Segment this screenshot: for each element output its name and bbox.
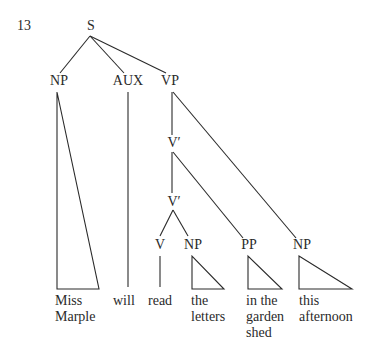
leaf-line: shed: [246, 325, 284, 341]
leaf-this-afternoon: this afternoon: [299, 293, 353, 325]
branch-s-np: [60, 36, 90, 73]
leaf-will: will: [113, 293, 135, 309]
example-number: 13: [17, 18, 31, 34]
leaf-in-the-garden-shed: in the garden shed: [246, 293, 284, 341]
node-vbar-upper: V′: [167, 135, 180, 151]
triangle-np-subject: [57, 92, 99, 289]
triangle-np-adjunct: [299, 256, 352, 289]
leaf-line: in the: [246, 293, 284, 309]
leaf-miss-marple: Miss Marple: [55, 293, 95, 325]
leaf-read: read: [148, 293, 172, 309]
leaf-line: garden: [246, 309, 284, 325]
leaf-line: Marple: [55, 309, 95, 325]
node-v: V: [155, 237, 165, 253]
branch-vbar-np: [173, 210, 188, 236]
node-np-subject: NP: [50, 73, 68, 89]
triangle-np-object: [192, 256, 224, 289]
leaf-line: letters: [191, 309, 225, 325]
branch-vbar-pp: [173, 152, 243, 238]
node-np-adjunct: NP: [293, 237, 311, 253]
branch-s-vp: [90, 36, 166, 73]
branch-vbar-v: [160, 210, 173, 236]
node-s: S: [87, 18, 95, 34]
leaf-line: this: [299, 293, 353, 309]
branch-vp-np: [173, 92, 296, 238]
node-aux: AUX: [113, 73, 143, 89]
branch-s-aux: [90, 36, 124, 73]
node-vbar-lower: V′: [167, 194, 180, 210]
leaf-line: afternoon: [299, 309, 353, 325]
node-vp: VP: [161, 73, 179, 89]
node-pp: PP: [241, 237, 257, 253]
leaf-the-letters: the letters: [191, 293, 225, 325]
node-np-object: NP: [184, 237, 202, 253]
leaf-line: the: [191, 293, 225, 309]
leaf-line: Miss: [55, 293, 95, 309]
triangle-pp: [248, 256, 282, 289]
syntax-tree-diagram: 13 S NP AUX VP V′ V′ V NP PP NP Miss Mar…: [0, 0, 375, 358]
